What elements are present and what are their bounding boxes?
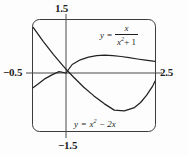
plot-canvas: [0, 0, 188, 156]
parabola-lhs: y: [74, 119, 78, 129]
curve-label-rational: y = x x2+ 1: [100, 24, 138, 47]
graph-figure: 1.5 −0.5 2.5 −1.5 y = x x2+ 1 y = x2 − 2…: [0, 0, 188, 156]
rational-equals: =: [107, 31, 112, 40]
rational-numerator: x: [122, 24, 132, 34]
rational-fraction: x x2+ 1: [115, 24, 138, 47]
parabola-term2: − 2x: [99, 119, 116, 129]
rational-denominator: x2+ 1: [115, 35, 138, 47]
parabola-equals: =: [81, 119, 86, 129]
window-ymax-label: 1.5: [55, 3, 68, 14]
window-xmax-label: 2.5: [160, 67, 173, 78]
rational-lhs: y: [100, 31, 104, 40]
curve-label-parabola: y = x2 − 2x: [74, 118, 116, 129]
window-xmin-label: −0.5: [3, 67, 22, 78]
window-ymin-label: −1.5: [58, 140, 77, 151]
parabola-term1-exponent: 2: [94, 118, 97, 124]
denominator-tail: + 1: [124, 37, 136, 47]
